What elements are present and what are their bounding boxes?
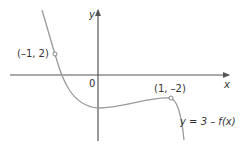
point-marker-neg1-2 xyxy=(53,52,57,56)
point-label-1-neg2: (1, –2) xyxy=(154,84,186,94)
point-marker-1-neg2 xyxy=(169,96,173,100)
origin-label: 0 xyxy=(89,79,95,89)
x-axis-label: x xyxy=(224,80,230,90)
curve-label: y = 3 – f(x) xyxy=(180,117,236,127)
y-axis-label: y xyxy=(89,10,95,20)
point-label-neg1-2: (–1, 2) xyxy=(17,49,49,59)
